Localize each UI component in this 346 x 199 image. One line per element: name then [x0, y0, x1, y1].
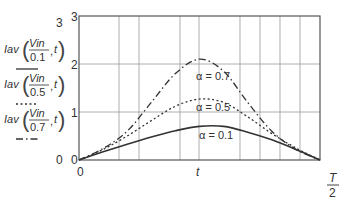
legend-func: Iav: [4, 78, 20, 90]
legend-entry-2: Iav(Vin0.7,t): [4, 107, 65, 139]
y-tick-inner-2: 2: [71, 58, 78, 72]
series-label-alpha-0.1: α = 0.1: [199, 129, 233, 141]
legend-func: Iav: [4, 113, 20, 125]
y-tick-inner-1: 1: [71, 106, 78, 120]
series-label-alpha-0.5: α = 0.5: [196, 101, 230, 113]
y-tick-inner-3: 3: [71, 10, 78, 24]
legend-den: 0.1: [30, 51, 45, 63]
x-axis-label: t: [196, 165, 200, 179]
y-tick-outer-3: 3: [56, 16, 63, 30]
legend-comma: ,: [50, 115, 53, 127]
x-tick-zero: 0: [77, 165, 84, 179]
legend-comma: ,: [50, 80, 53, 92]
legend-entry-1: Iav(Vin0.5,t): [4, 72, 65, 104]
x-end-label-num: T: [329, 171, 338, 185]
chart: 3 0 3 2 1 0 0 t T 2 α = 0.7 α = 0.5 α = …: [0, 0, 346, 199]
legend-paren-right: ): [58, 107, 65, 132]
legend-func: Iav: [4, 43, 20, 55]
legend-den: 0.7: [30, 121, 45, 133]
legend-num: Vin: [29, 107, 45, 119]
x-end-label-den: 2: [329, 186, 336, 199]
legend-num: Vin: [29, 37, 45, 49]
legend-den: 0.5: [30, 86, 45, 98]
legend-comma: ,: [50, 45, 53, 57]
legend-paren-right: ): [58, 72, 65, 97]
y-tick-outer-0: 0: [56, 153, 63, 167]
legend-paren-right: ): [58, 37, 65, 62]
legend-num: Vin: [29, 72, 45, 84]
legend-entry-0: Iav(Vin0.1,t): [4, 37, 65, 69]
legend: Iav(Vin0.1,t)Iav(Vin0.5,t)Iav(Vin0.7,t): [4, 37, 65, 139]
series-label-alpha-0.7: α = 0.7: [196, 70, 230, 82]
